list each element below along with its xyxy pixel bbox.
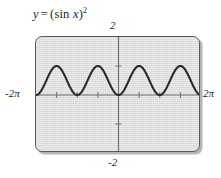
x-max-label: 2π xyxy=(203,88,214,99)
plot-canvas xyxy=(36,37,200,152)
plot-frame xyxy=(35,36,200,152)
equation-exponent: 2 xyxy=(83,6,87,15)
equation-title: y=(sin x)2 xyxy=(33,8,87,21)
x-min-label: -2π xyxy=(5,88,20,99)
equation-operator: = xyxy=(39,7,50,21)
equation-function: sin xyxy=(54,7,69,21)
graph-figure: y=(sin x)2 2 -2 -2π 2π xyxy=(0,0,221,178)
y-max-label: 2 xyxy=(110,20,116,31)
y-min-label: -2 xyxy=(108,157,117,168)
equation-lhs: y xyxy=(33,7,39,21)
